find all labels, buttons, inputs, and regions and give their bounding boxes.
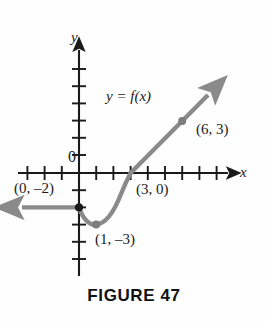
origin-label: 0 <box>68 149 76 165</box>
label-3-0: (3, 0) <box>136 182 169 197</box>
function-graph <box>22 95 208 225</box>
figure-caption: FIGURE 47 <box>0 286 268 306</box>
point-marker-6-3 <box>178 117 186 125</box>
point-marker-1-minus3 <box>92 221 100 229</box>
figure-container: y x 0 y = f(x) (0, –2) (1, –3) (3, 0) (6… <box>0 0 268 322</box>
function-label: y = f(x) <box>106 89 151 104</box>
label-1-minus3: (1, –3) <box>95 232 135 247</box>
label-0-minus2: (0, –2) <box>14 181 54 196</box>
label-6-3: (6, 3) <box>196 122 229 137</box>
point-marker-0-minus2 <box>75 203 83 211</box>
y-axis-label: y <box>71 30 78 45</box>
graph-canvas <box>0 0 268 322</box>
curve-arc-middle <box>79 173 131 225</box>
x-axis-label: x <box>240 165 247 180</box>
